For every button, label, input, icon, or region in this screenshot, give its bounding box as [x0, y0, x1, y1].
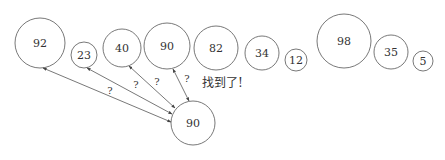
node-value: 35	[384, 46, 398, 59]
node-value: 90	[186, 117, 200, 130]
node-value: 92	[33, 37, 47, 50]
array-node: 40	[103, 29, 141, 67]
node-value: 23	[77, 49, 91, 62]
array-node: 12	[285, 49, 307, 71]
target-node: 90	[171, 101, 215, 145]
array-node: 82	[194, 26, 238, 70]
array-node: 34	[245, 36, 279, 70]
target-node-circle: 90	[171, 101, 215, 145]
node-value: 98	[337, 35, 351, 48]
array-node: 98	[317, 14, 371, 68]
node-value: 5	[420, 55, 427, 68]
comparison-arrow	[87, 68, 172, 114]
found-label: 找到了!	[202, 76, 243, 90]
node-value: 12	[289, 54, 303, 67]
question-mark-label: ?	[107, 85, 112, 96]
node-value: 90	[160, 40, 174, 53]
linear-search-diagram: 9223409082341298355 ???? 90 找到了!	[0, 0, 445, 160]
comparison-arrows: ????	[43, 66, 190, 122]
node-value: 82	[209, 42, 223, 55]
question-mark-label: ?	[184, 73, 189, 84]
array-node: 92	[15, 18, 65, 68]
array-nodes: 9223409082341298355	[15, 14, 433, 71]
question-mark-label: ?	[154, 76, 159, 87]
node-value: 40	[115, 42, 129, 55]
array-node: 5	[413, 51, 433, 71]
array-node: 23	[71, 42, 97, 68]
node-value: 34	[255, 47, 269, 60]
array-node: 90	[144, 23, 190, 69]
array-node: 35	[374, 35, 408, 69]
question-mark-label: ?	[133, 79, 138, 90]
